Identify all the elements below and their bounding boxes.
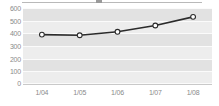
x-axis-line [23, 84, 212, 85]
y-tick-label: 600 [1, 5, 21, 12]
data-point-marker [40, 32, 45, 37]
line-chart: 600 500 400 300 200 100 0 1/04 1/05 1/06… [0, 0, 219, 106]
y-tick-label: 100 [1, 68, 21, 75]
x-tick-label: 1/04 [25, 89, 59, 97]
x-tick-label: 1/06 [101, 89, 135, 97]
x-tick-label: 1/08 [176, 89, 210, 97]
x-tick-label: 1/07 [138, 89, 172, 97]
top-divider [22, 2, 202, 3]
y-axis-labels: 600 500 400 300 200 100 0 [0, 0, 21, 106]
data-point-marker [153, 23, 158, 28]
x-axis-labels: 1/04 1/05 1/06 1/07 1/08 [23, 89, 212, 101]
title-crop-remnant [96, 0, 102, 3]
y-tick-label: 300 [1, 43, 21, 50]
y-tick-label: 400 [1, 30, 21, 37]
y-tick-label: 500 [1, 18, 21, 25]
data-point-marker [77, 33, 82, 38]
x-tick-label: 1/05 [63, 89, 97, 97]
data-point-marker [191, 14, 196, 19]
y-tick-label: 0 [1, 80, 21, 87]
y-tick-label: 200 [1, 56, 21, 63]
data-series [23, 8, 212, 84]
data-point-marker [115, 29, 120, 34]
